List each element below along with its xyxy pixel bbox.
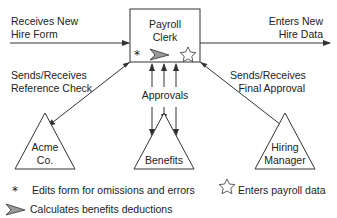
legend-arrowhead-text: Calculates benefits deductions (30, 203, 172, 216)
legend-arrowhead-icon (6, 204, 25, 215)
reference-check-label: Sends/Receives Reference Check (11, 69, 92, 95)
legend-star-icon (219, 179, 235, 194)
approvals-label: Approvals (130, 89, 200, 102)
enters-label: Enters New Hire Data (269, 15, 323, 41)
hiring-manager-label: Hiring Manager (255, 141, 315, 167)
legend-star-text: Enters payroll data (238, 184, 326, 197)
receives-label: Receives New Hire Form (11, 15, 78, 41)
acme-label: Acme Co. (20, 141, 70, 167)
benefits-label: Benefits (139, 154, 189, 167)
legend-asterisk-icon: * (12, 184, 18, 198)
final-approval-label: Sends/Receives Final Approval (230, 69, 305, 95)
payroll-clerk-label: Payroll Clerk (130, 18, 200, 44)
legend-asterisk-text: Edits form for omissions and errors (32, 184, 195, 197)
asterisk-icon: * (134, 48, 140, 62)
